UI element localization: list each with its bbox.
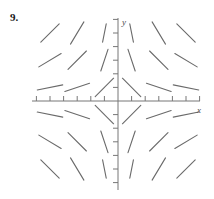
slope-segment xyxy=(95,105,113,123)
slope-segment xyxy=(175,135,197,148)
slope-segment xyxy=(146,110,171,118)
slope-segment xyxy=(65,110,90,118)
slope-segment xyxy=(103,160,107,178)
slope-segment xyxy=(150,51,168,69)
y-axis-label: y xyxy=(121,17,126,27)
slope-segment xyxy=(175,54,197,67)
slope-segment xyxy=(41,24,59,42)
slope-segment xyxy=(146,83,171,91)
slope-segment xyxy=(41,160,59,178)
slope-segment xyxy=(152,22,165,44)
slope-segment xyxy=(173,85,199,90)
slope-segment xyxy=(39,135,61,148)
slope-segment xyxy=(68,51,86,69)
slope-segment xyxy=(130,24,134,42)
x-axis-label: x xyxy=(196,105,201,115)
slope-segment xyxy=(150,133,168,151)
slope-segment xyxy=(177,24,195,42)
axes-group xyxy=(32,18,200,190)
slope-segment xyxy=(39,54,61,67)
slope-segment xyxy=(122,105,140,123)
slope-segment xyxy=(95,78,113,96)
slope-field-plot: x y xyxy=(0,0,214,199)
slope-segment xyxy=(173,112,199,117)
slope-segment xyxy=(71,158,84,180)
slope-segment xyxy=(37,112,63,117)
slope-segment xyxy=(128,49,135,71)
slope-segment xyxy=(68,133,86,151)
slope-segment xyxy=(37,85,63,90)
slope-segment xyxy=(152,158,165,180)
slope-segment xyxy=(177,160,195,178)
slope-segment xyxy=(101,131,108,153)
figure-container: 9. x y xyxy=(0,0,214,199)
slope-segment xyxy=(71,22,84,44)
slope-segment xyxy=(130,160,134,178)
slope-segment xyxy=(122,78,140,96)
slope-segment xyxy=(65,83,90,91)
slope-segment xyxy=(101,49,108,71)
slope-segment xyxy=(103,24,107,42)
slope-segment xyxy=(128,131,135,153)
